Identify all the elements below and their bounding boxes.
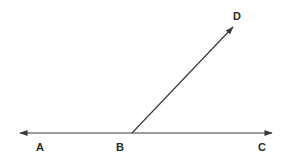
point-label-c: C — [258, 141, 266, 153]
ray-bd — [132, 27, 233, 133]
angle-diagram: A B C D — [0, 0, 284, 165]
diagram-canvas: A B C D — [0, 0, 284, 165]
point-label-d: D — [233, 10, 241, 22]
point-label-a: A — [36, 141, 44, 153]
point-label-b: B — [116, 141, 124, 153]
